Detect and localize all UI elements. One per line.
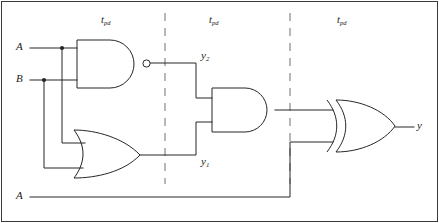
node-y1-subscript: 1 <box>206 161 210 168</box>
wire-a-bottom-to-xor <box>30 142 333 197</box>
tpd-stage-1-subscript: pd <box>104 19 111 26</box>
tpd-stage-1-label: tpd <box>101 15 111 26</box>
junction-b <box>42 78 46 82</box>
nand-gate <box>77 40 150 88</box>
and-gate-body <box>212 88 267 132</box>
xor-gate <box>327 100 395 152</box>
input-a-top-label: A <box>16 41 23 52</box>
and-gate <box>212 88 267 132</box>
circuit-canvas <box>0 0 439 223</box>
tpd-stage-3-label: tpd <box>337 15 347 26</box>
xor-gate-arc <box>327 100 337 152</box>
or-gate-body <box>74 130 140 178</box>
figure-border <box>2 2 438 222</box>
wire-b-to-or <box>44 80 83 168</box>
wires <box>30 48 414 197</box>
junction-dots <box>42 46 64 82</box>
tpd-stage-2-label: tpd <box>209 15 219 26</box>
tpd-stage-3-subscript: pd <box>340 19 347 26</box>
node-y2-label: y2 <box>201 50 210 61</box>
wire-a-to-or <box>62 48 85 143</box>
junction-a <box>60 46 64 50</box>
xor-gate-body <box>336 100 395 152</box>
output-y-label: y <box>417 120 422 131</box>
nand-gate-bubble <box>143 60 150 67</box>
or-gate <box>74 130 140 178</box>
nand-gate-body <box>77 40 134 88</box>
input-a-bottom-label: A <box>16 190 23 201</box>
node-y1-label: y1 <box>201 156 210 167</box>
tpd-stage-2-subscript: pd <box>212 19 219 26</box>
stage-dividers <box>165 13 290 184</box>
wire-y1-to-and <box>140 122 212 155</box>
input-b-label: B <box>16 73 23 84</box>
logic-circuit-diagram: A B A y y2 y1 tpd tpd tpd <box>0 0 439 223</box>
wire-y2-to-and <box>149 63 212 98</box>
node-y2-subscript: 2 <box>206 55 210 62</box>
